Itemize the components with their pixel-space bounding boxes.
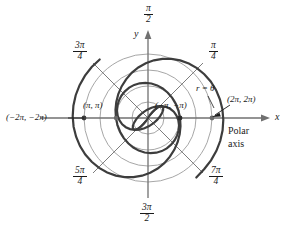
angle-label-5pi-over-4: 5π 4 <box>73 166 87 186</box>
y-axis-label: y <box>134 29 138 39</box>
y-axis-arrowhead <box>145 30 152 39</box>
marker-pi <box>114 116 118 120</box>
polar-axis-label-line1: Polar <box>228 126 249 136</box>
curve-equation-label: r = θ <box>196 84 215 93</box>
angle-label-3pi-over-4-numerator: 3π <box>73 41 87 51</box>
angle-label-7pi-over-4-numerator: 7π <box>209 166 223 176</box>
angle-label-5pi-over-4-denominator: 4 <box>73 176 87 187</box>
angle-label-pi-over-2-denominator: 2 <box>144 14 153 25</box>
marker-negpi <box>178 116 183 121</box>
angle-label-3pi-over-4-denominator: 4 <box>73 51 87 62</box>
point-label-2pi: (2π, 2π) <box>227 95 256 104</box>
angle-label-pi-over-2: π 2 <box>144 4 153 24</box>
polar-axis-label-line2: axis <box>228 139 244 149</box>
polar-spiral-figure: π 2 y π 4 3π 4 5π 4 7π 4 3π <box>0 0 295 232</box>
angle-label-pi-over-4-numerator: π <box>209 41 218 51</box>
angle-label-3pi-over-4: 3π 4 <box>73 41 87 61</box>
angle-label-3pi-over-2: 3π 2 <box>140 203 154 223</box>
x-axis-arrowhead <box>261 115 270 122</box>
point-label-neg-pi: (−π, −π) <box>155 101 187 110</box>
point-label-pi: (π, π) <box>83 101 103 110</box>
angle-label-pi-over-4-denominator: 4 <box>209 51 218 62</box>
angle-label-pi-over-2-numerator: π <box>144 4 153 14</box>
angle-label-3pi-over-2-denominator: 2 <box>140 213 154 224</box>
angle-label-5pi-over-4-numerator: 5π <box>73 166 87 176</box>
angle-label-pi-over-4: π 4 <box>209 41 218 61</box>
angle-label-7pi-over-4: 7π 4 <box>209 166 223 186</box>
point-label-neg-2pi: (−2π, −2π) <box>6 113 47 122</box>
angle-label-7pi-over-4-denominator: 4 <box>209 176 223 187</box>
angle-label-3pi-over-2-numerator: 3π <box>140 203 154 213</box>
x-axis-label: x <box>275 112 279 122</box>
